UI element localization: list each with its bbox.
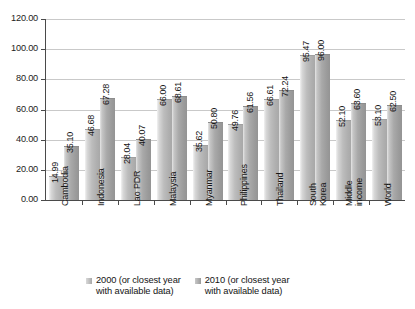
legend-entry-2000[interactable]: 2000 (or closest year with available dat… — [86, 275, 181, 296]
bar-chart: 0.0020.0040.0060.0080.00100.00120.00 200… — [0, 0, 415, 309]
legend-label: 2010 (or closest year with available dat… — [205, 275, 290, 296]
x-axis-category-label-line: Malaysia — [168, 172, 178, 206]
y-axis-tick-mark — [41, 170, 46, 171]
y-axis-tick-label: 100.00 — [11, 45, 38, 54]
x-axis-category-label: Thailand — [276, 173, 286, 206]
y-axis-tick-mark — [41, 140, 46, 141]
x-axis-category-label-line: income — [355, 178, 365, 206]
bar-2000[interactable] — [300, 55, 315, 200]
x-axis-category-label-line: Indonesia — [96, 168, 106, 206]
y-axis-tick-mark — [41, 79, 46, 80]
bar-value-label: 62.50 — [389, 91, 398, 112]
x-axis-tick-mark — [190, 201, 191, 205]
bar-value-label: 28.04 — [123, 143, 132, 164]
x-axis-category-label: World — [384, 183, 394, 206]
legend-entry-2010[interactable]: 2010 (or closest year with available dat… — [195, 275, 290, 296]
bar-value-label: 66.61 — [266, 84, 275, 105]
x-axis-category-label: SouthKorea — [309, 183, 328, 206]
x-axis-tick-mark — [333, 201, 334, 205]
y-axis-tick-label: 20.00 — [16, 165, 38, 174]
x-axis-category-label-line: Cambodia — [60, 166, 70, 206]
bar-value-label: 68.61 — [174, 81, 183, 102]
x-axis-category-label: Lao PDR — [133, 171, 143, 206]
y-axis-tick-label: 60.00 — [16, 105, 38, 114]
chart-legend: 2000 (or closest year with available dat… — [86, 275, 289, 296]
x-axis-tick-mark — [297, 201, 298, 205]
x-axis-category-label: Philippines — [240, 164, 250, 206]
x-axis-category-label-line: Philippines — [239, 164, 249, 206]
bar-value-label: 96.00 — [317, 40, 326, 61]
bar-value-label: 50.80 — [210, 108, 219, 129]
bar-value-label: 35.10 — [66, 132, 75, 153]
legend-swatch-icon — [86, 278, 92, 284]
legend-label: 2000 (or closest year with available dat… — [96, 275, 181, 296]
y-axis-tick-mark — [41, 110, 46, 111]
x-axis-tick-mark — [82, 201, 83, 205]
y-axis-tick-label: 0.00 — [21, 195, 38, 204]
x-axis-tick-mark — [369, 201, 370, 205]
gridline — [46, 49, 405, 50]
x-axis-category-label-line: Middle — [344, 180, 354, 206]
y-axis-tick-label: 40.00 — [16, 135, 38, 144]
bar-value-label: 49.76 — [231, 110, 240, 131]
bar-value-label: 46.68 — [87, 115, 96, 136]
x-axis-category-label: Malaysia — [169, 172, 179, 206]
x-axis-category-label-line: Myanmar — [204, 170, 214, 206]
y-axis-tick-mark — [41, 200, 46, 201]
y-axis: 0.0020.0040.0060.0080.00100.00120.00 — [0, 0, 44, 309]
bar-value-label: 72.24 — [281, 76, 290, 97]
x-axis-category-label: Middleincome — [345, 178, 364, 206]
x-axis-category-label-line: Korea — [319, 183, 329, 206]
x-axis-tick-mark — [118, 201, 119, 205]
y-axis-tick-mark — [41, 19, 46, 20]
x-axis-category-label: Indonesia — [97, 168, 107, 206]
x-axis-category-label-line: Lao PDR — [132, 171, 142, 206]
y-axis-tick-label: 120.00 — [11, 14, 38, 23]
x-axis-tick-mark — [226, 201, 227, 205]
bar-value-label: 63.60 — [353, 89, 362, 110]
y-axis-tick-label: 80.00 — [16, 75, 38, 84]
x-axis-tick-mark — [154, 201, 155, 205]
bar-value-label: 67.28 — [102, 83, 111, 104]
gridline — [46, 79, 405, 80]
x-axis-category-label-line: South — [308, 183, 318, 206]
bar-value-label: 66.00 — [159, 85, 168, 106]
legend-swatch-icon — [195, 278, 201, 284]
bar-value-label: 61.56 — [246, 92, 255, 113]
x-axis-category-label: Cambodia — [61, 166, 71, 206]
y-axis-tick-mark — [41, 49, 46, 50]
bar-2010[interactable] — [315, 54, 330, 200]
x-axis-category-label-line: World — [383, 183, 393, 206]
x-axis-category-label: Myanmar — [205, 170, 215, 206]
bar-value-label: 95.47 — [302, 41, 311, 62]
bar-value-label: 52.10 — [338, 106, 347, 127]
bar-value-label: 35.62 — [195, 131, 204, 152]
bar-value-label: 14.99 — [51, 162, 60, 183]
gridline — [46, 19, 405, 20]
x-axis-tick-mark — [261, 201, 262, 205]
x-axis-category-label-line: Thailand — [275, 173, 285, 206]
bar-value-label: 40.07 — [138, 125, 147, 146]
bar-value-label: 53.10 — [374, 105, 383, 126]
